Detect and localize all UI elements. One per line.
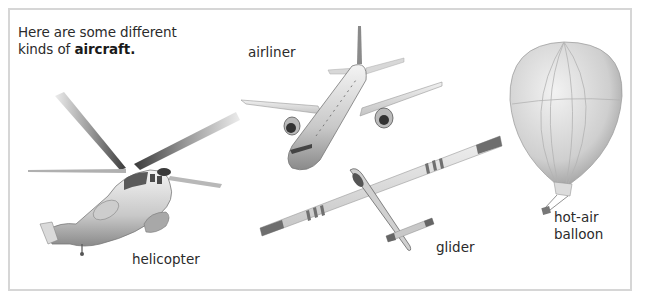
tail: [40, 222, 58, 244]
aircraft-illustrations: [0, 0, 646, 302]
engine-intake: [286, 123, 296, 133]
fuselage: [288, 65, 366, 170]
rotor-blade: [134, 112, 240, 170]
balloon-envelope: [510, 42, 622, 184]
rotor-blade: [28, 169, 126, 173]
tail-fin: [357, 26, 362, 64]
label-airliner: airliner: [248, 44, 296, 61]
window: [157, 176, 162, 184]
left-wing: [241, 100, 322, 114]
rotor-blade: [168, 176, 222, 188]
right-wing: [360, 82, 442, 116]
engine-intake: [379, 115, 389, 125]
engine-intake: [157, 168, 171, 176]
hot-air-balloon-illustration: [510, 42, 622, 215]
balloon-skirt: [554, 182, 572, 196]
window: [150, 174, 155, 182]
rope: [550, 196, 568, 210]
label-helicopter: helicopter: [132, 251, 200, 268]
basket: [541, 206, 551, 215]
helicopter-illustration: [28, 92, 240, 256]
wheel: [80, 252, 84, 256]
wingtip: [476, 136, 502, 154]
rotor-blade: [55, 92, 126, 170]
stabilizer: [366, 58, 404, 74]
label-hot-air-balloon: hot-air balloon: [554, 209, 603, 243]
wingtip: [260, 220, 284, 236]
label-glider: glider: [436, 239, 475, 256]
